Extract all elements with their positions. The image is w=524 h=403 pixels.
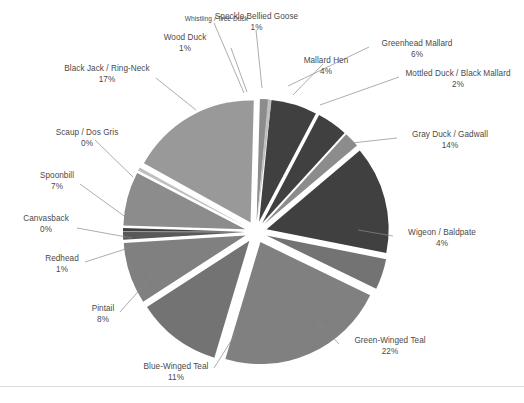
label-wigeon-baldpate: Wigeon / Baldpate 4% [394, 228, 490, 249]
label-name: Gray Duck / Gadwall [398, 130, 502, 141]
label-wood-duck: Wood Duck 1% [148, 33, 222, 54]
pie-chart-canvas [0, 0, 524, 403]
label-percent: 8% [82, 315, 124, 326]
label-name: Blue-Winged Teal [130, 362, 222, 373]
label-name: Whistling / Tree Duck [164, 14, 269, 23]
label-percent: 11% [130, 373, 222, 384]
label-spoonbill: Spoonbill 7% [30, 171, 84, 192]
clipped-caption [0, 393, 524, 403]
label-percent: 4% [290, 67, 362, 78]
label-percent: 6% [362, 50, 472, 61]
label-percent: 7% [30, 182, 84, 193]
label-percent: 22% [340, 347, 440, 358]
label-name: Mottled Duck / Black Mallard [396, 69, 520, 80]
label-greenhead-mallard: Greenhead Mallard 6% [362, 39, 472, 60]
label-name: Wigeon / Baldpate [394, 228, 490, 239]
label-percent: 0% [44, 139, 130, 150]
label-gray-duck-gadwall: Gray Duck / Gadwall 14% [398, 130, 502, 151]
label-name: Canvasback [14, 214, 78, 225]
label-percent: 1% [198, 23, 315, 34]
label-redhead: Redhead 1% [37, 254, 87, 275]
label-name: Greenhead Mallard [362, 39, 472, 50]
label-black-jack-ring-neck: Black Jack / Ring-Neck 17% [53, 64, 161, 85]
label-percent: 14% [398, 141, 502, 152]
label-mottled-duck: Mottled Duck / Black Mallard 2% [396, 69, 520, 90]
label-name: Pintail [82, 304, 124, 315]
label-percent: 4% [394, 239, 490, 250]
label-percent: 0% [14, 225, 78, 236]
label-percent: 2% [396, 80, 520, 91]
label-name: Scaup / Dos Gris [44, 128, 130, 139]
label-name: Wood Duck [148, 33, 222, 44]
label-percent: 1% [37, 265, 87, 276]
label-name: Black Jack / Ring-Neck [53, 64, 161, 75]
label-name: Redhead [37, 254, 87, 265]
pie-slices [123, 99, 389, 364]
label-percent: 1% [148, 44, 222, 55]
pie-chart: Speckle Bellied Goose 1% Whistling / Tre… [0, 0, 524, 403]
label-name: Spoonbill [30, 171, 84, 182]
label-whistling-tree-duck: Whistling / Tree Duck [164, 14, 269, 23]
label-scaup-dos-gris: Scaup / Dos Gris 0% [44, 128, 130, 149]
label-blue-winged-teal: Blue-Winged Teal 11% [130, 362, 222, 383]
label-name: Green-Winged Teal [340, 336, 440, 347]
label-canvasback: Canvasback 0% [14, 214, 78, 235]
label-green-winged-teal: Green-Winged Teal 22% [340, 336, 440, 357]
label-mallard-hen: Mallard Hen 4% [290, 56, 362, 77]
label-pintail: Pintail 8% [82, 304, 124, 325]
label-percent: 17% [53, 75, 161, 86]
label-name: Mallard Hen [290, 56, 362, 67]
plot-area-border [0, 386, 524, 387]
